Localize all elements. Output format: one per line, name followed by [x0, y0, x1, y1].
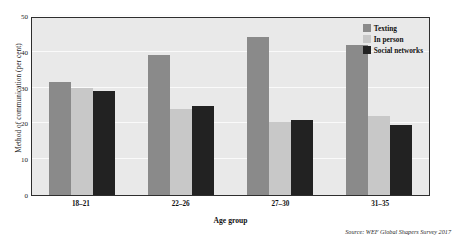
- y-tick-label: 30: [6, 85, 28, 93]
- x-tick-label: 31–35: [335, 200, 425, 208]
- bar[interactable]: [390, 125, 412, 195]
- y-tick-label: 10: [6, 156, 28, 164]
- legend-label: Texting: [374, 24, 397, 33]
- bar[interactable]: [49, 82, 71, 195]
- bar-group: [49, 18, 115, 195]
- y-tick-label: 40: [6, 49, 28, 57]
- bar[interactable]: [368, 116, 390, 195]
- legend-swatch-texting: [363, 24, 371, 32]
- y-tick-label: 50: [6, 13, 28, 21]
- x-axis-title: Age group: [31, 216, 430, 225]
- y-axis-tick-labels: 01020304050: [6, 17, 28, 196]
- bar[interactable]: [269, 122, 291, 195]
- y-tick-label: 0: [6, 192, 28, 200]
- x-axis-tick-labels: 18–2122–2627–3031–35: [31, 200, 430, 208]
- legend-item[interactable]: Social networks: [363, 45, 423, 55]
- bar[interactable]: [148, 55, 170, 195]
- x-tick-label: 27–30: [235, 200, 325, 208]
- legend: Texting In person Social networks: [362, 22, 425, 57]
- bar[interactable]: [346, 45, 368, 195]
- legend-swatch-in-person: [363, 35, 371, 43]
- x-tick-label: 22–26: [136, 200, 226, 208]
- bar[interactable]: [247, 37, 269, 195]
- bar[interactable]: [93, 91, 115, 195]
- bar-chart-figure: Method of communication (per cent) 01020…: [0, 0, 455, 241]
- bar[interactable]: [291, 120, 313, 195]
- x-tick-label: 18–21: [36, 200, 126, 208]
- bar-group: [247, 18, 313, 195]
- gridline: [32, 15, 429, 16]
- legend-label: Social networks: [374, 46, 423, 55]
- legend-label: In person: [374, 35, 404, 44]
- bar[interactable]: [192, 106, 214, 196]
- plot-area: Texting In person Social networks: [31, 17, 430, 196]
- source-note: Source: WEF Global Shapers Survey 2017: [345, 228, 451, 235]
- y-tick-label: 20: [6, 120, 28, 128]
- bar[interactable]: [170, 109, 192, 195]
- legend-item[interactable]: Texting: [363, 23, 423, 33]
- bar[interactable]: [71, 88, 93, 195]
- bar-group: [148, 18, 214, 195]
- legend-item[interactable]: In person: [363, 34, 423, 44]
- legend-swatch-social-networks: [363, 46, 371, 54]
